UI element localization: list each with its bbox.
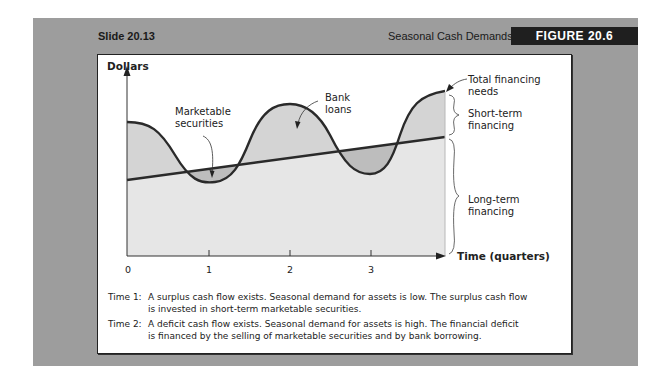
- bank-label-line1: Bank: [325, 92, 350, 103]
- marketable-label-line2: securities: [175, 118, 223, 129]
- short-term-label-line1: Short-term: [468, 108, 522, 119]
- caption-text: is invested in short-term marketable sec…: [108, 303, 527, 315]
- long-term-label-line2: financing: [468, 206, 514, 217]
- caption-label: Time 1:: [108, 291, 148, 303]
- x-tick-label-2: 2: [287, 264, 293, 275]
- long-term-brace: [449, 139, 459, 254]
- bank-label-line2: loans: [325, 104, 352, 115]
- caption-time-1: Time 1:A surplus cash flow exists. Seaso…: [108, 291, 527, 315]
- long-term-label-line1: Long-term: [468, 194, 520, 205]
- marketable-label-line1: Marketable: [175, 106, 231, 117]
- x-axis-label: Time (quarters): [457, 250, 550, 262]
- short-term-label-line2: financing: [468, 120, 514, 131]
- y-axis-label: Dollars: [107, 60, 149, 72]
- caption-time-2: Time 2:A deficit cash flow exists. Seaso…: [108, 318, 519, 342]
- caption-text: A surplus cash flow exists. Seasonal dem…: [148, 292, 527, 302]
- caption-label: Time 2:: [108, 318, 148, 330]
- short-term-brace: [449, 95, 459, 135]
- total-needs-pointer: [450, 79, 467, 88]
- caption-text: is financed by the selling of marketable…: [108, 330, 519, 342]
- total-needs-label-line2: needs: [468, 86, 498, 97]
- x-tick-label-3: 3: [368, 264, 374, 275]
- x-tick-label-0: 0: [125, 264, 131, 275]
- caption-text: A deficit cash flow exists. Seasonal dem…: [148, 319, 519, 329]
- x-tick-label-1: 1: [206, 264, 212, 275]
- total-needs-label-line1: Total financing: [467, 74, 541, 85]
